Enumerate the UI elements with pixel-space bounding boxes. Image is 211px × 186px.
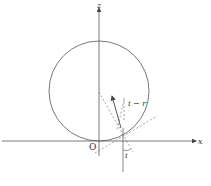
z-axis-label: z [96, 1, 102, 10]
diagram-canvas: z x O i − r i [0, 0, 211, 186]
angle-i-minus-r-label: i − r [128, 99, 147, 108]
tangent-dashed [95, 116, 157, 153]
origin-label: O [89, 142, 96, 152]
angle-i-label: i [125, 151, 128, 160]
normal-vector [112, 96, 121, 128]
x-axis-label: x [198, 137, 203, 146]
